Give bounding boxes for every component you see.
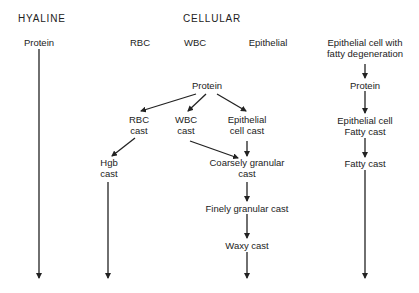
label-epithelial-fatty-degeneration: Epithelial cell with fatty degeneration — [327, 37, 403, 59]
label-epithelial: Epithelial — [249, 37, 288, 48]
label-coarsely-granular-cast: Coarsely granular cast — [210, 157, 285, 179]
label-rbc-cast: RBC cast — [129, 114, 149, 136]
label-fatty-protein: Protein — [350, 80, 380, 91]
label-epithelial-cell-fatty-cast: Epithelial cell Fatty cast — [337, 115, 392, 137]
label-line: cell cast — [228, 125, 267, 136]
label-line: cast — [100, 168, 117, 179]
arrow-wbc-coarse — [190, 141, 238, 158]
label-line: Epithelial — [228, 114, 267, 125]
label-line: WBC — [175, 114, 197, 125]
label-wbc-cast: WBC cast — [175, 114, 197, 136]
arrow-protein-rbc-cast — [141, 94, 196, 111]
label-line: fatty degeneration — [327, 48, 403, 59]
arrow-protein-epi-cast — [217, 94, 246, 111]
label-line: Hgb — [100, 157, 117, 168]
label-finely-granular-cast: Finely granular cast — [206, 203, 289, 214]
label-rbc: RBC — [130, 37, 150, 48]
label-line: Epithelial cell with — [327, 37, 403, 48]
label-line: RBC — [129, 114, 149, 125]
label-wbc: WBC — [184, 37, 206, 48]
header-hyaline: HYALINE — [18, 13, 66, 24]
label-hyaline-protein: Protein — [24, 37, 54, 48]
label-line: Epithelial cell — [337, 115, 392, 126]
label-line: Coarsely granular — [210, 157, 285, 168]
label-line: cast — [175, 125, 197, 136]
label-hgb-cast: Hgb cast — [100, 157, 117, 179]
arrow-rbc-hgb — [112, 138, 135, 156]
label-line: cast — [210, 168, 285, 179]
arrow-protein-wbc-cast — [188, 94, 206, 111]
label-line: Fatty cast — [337, 126, 392, 137]
label-epithelial-cell-cast: Epithelial cell cast — [228, 114, 267, 136]
label-waxy-cast: Waxy cast — [225, 240, 268, 251]
label-cellular-protein: Protein — [192, 80, 222, 91]
label-fatty-cast: Fatty cast — [344, 158, 385, 169]
label-line: cast — [129, 125, 149, 136]
header-cellular: CELLULAR — [183, 13, 241, 24]
